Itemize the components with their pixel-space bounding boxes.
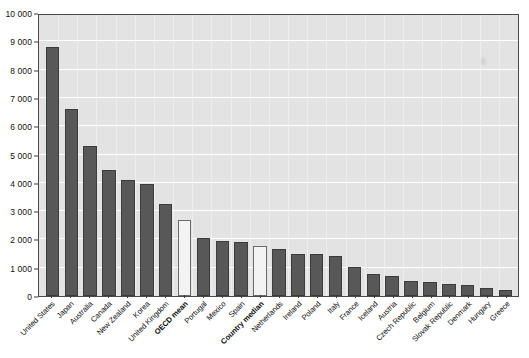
bar-austria[interactable] (385, 276, 399, 296)
bar-slot (251, 15, 270, 296)
bar-portugal[interactable] (197, 238, 211, 296)
x-axis-slot: Ireland (288, 298, 307, 358)
x-axis-tick-mark (89, 295, 90, 298)
y-axis-tick-label: 9 000 (10, 37, 32, 47)
x-axis-tick-mark (165, 295, 166, 298)
bar-slot (137, 15, 156, 296)
y-axis-tick-label: 7 000 (10, 94, 32, 104)
bar-italy[interactable] (329, 256, 343, 296)
x-axis-tick-mark (108, 295, 109, 298)
x-axis-slot: Portugal (194, 298, 213, 358)
bar-slot (43, 15, 62, 296)
bar-ireland[interactable] (291, 254, 305, 296)
bar-slot (477, 15, 496, 296)
bar-slot (439, 15, 458, 296)
x-axis-tick-mark (222, 295, 223, 298)
x-axis-tick-mark (506, 295, 507, 298)
bar-spain[interactable] (234, 242, 248, 296)
x-axis-slot: France (345, 298, 364, 358)
x-axis-labels: United StatesJapanAustraliaCanadaNew Zea… (38, 298, 519, 358)
y-axis-tick-label: 0 (27, 292, 32, 302)
y-axis-tick-label: 5 000 (10, 151, 32, 161)
bar-slot (213, 15, 232, 296)
bar-slot (81, 15, 100, 296)
x-axis-slot: Japan (61, 298, 80, 358)
x-axis-slot: Slovak Republic (440, 298, 459, 358)
x-axis-slot: Iceland (364, 298, 383, 358)
x-axis-tick-mark (412, 295, 413, 298)
bar-slot (307, 15, 326, 296)
x-axis-tick-mark (336, 295, 337, 298)
x-axis-slot: Denmark (459, 298, 478, 358)
x-axis-tick-mark (279, 295, 280, 298)
x-axis-tick-mark (374, 295, 375, 298)
bar-slot (62, 15, 81, 296)
bar-slot (345, 15, 364, 296)
x-axis-tick-mark (184, 295, 185, 298)
plot-area (38, 14, 519, 297)
x-axis-tick-mark (468, 295, 469, 298)
x-axis-tick-mark (203, 295, 204, 298)
bar-slot (326, 15, 345, 296)
y-axis-tick-label: 10 000 (5, 9, 32, 19)
x-axis-tick-mark (241, 295, 242, 298)
bar-slot (288, 15, 307, 296)
bar-united-kingdom[interactable] (159, 204, 173, 296)
bar-france[interactable] (348, 267, 362, 296)
bar-slot (402, 15, 421, 296)
bar-slot (458, 15, 477, 296)
bar-oecd-mean[interactable] (178, 220, 192, 296)
x-axis-tick-mark (127, 295, 128, 298)
x-axis-slot: Greece (497, 298, 516, 358)
x-axis-tick-mark (431, 295, 432, 298)
x-axis-slot: OECD mean (175, 298, 194, 358)
y-axis: 01 0002 0003 0004 0005 0006 0007 0008 00… (0, 14, 38, 297)
bar-slot (364, 15, 383, 296)
bar-slot (383, 15, 402, 296)
bar-series (39, 15, 518, 296)
bar-chart: 01 0002 0003 0004 0005 0006 0007 0008 00… (0, 0, 529, 358)
bar-iceland[interactable] (367, 274, 381, 296)
y-axis-tick-label: 3 000 (10, 207, 32, 217)
bar-slot (194, 15, 213, 296)
bar-czech-republic[interactable] (404, 281, 418, 296)
bar-slot (421, 15, 440, 296)
x-axis-tick-mark (317, 295, 318, 298)
x-axis-tick-mark (146, 295, 147, 298)
bar-slot (100, 15, 119, 296)
bar-slot (119, 15, 138, 296)
x-axis-tick-mark (260, 295, 261, 298)
x-axis-slot: Italy (326, 298, 345, 358)
bar-new-zealand[interactable] (121, 180, 135, 296)
x-axis-slot: Poland (307, 298, 326, 358)
bar-united-states[interactable] (46, 47, 60, 296)
x-axis-tick-mark (298, 295, 299, 298)
x-axis-tick-label: United States (20, 300, 57, 337)
x-axis-slot: United States (42, 298, 61, 358)
bar-poland[interactable] (310, 254, 324, 296)
bar-mexico[interactable] (216, 241, 230, 296)
y-axis-tick-label: 8 000 (10, 66, 32, 76)
y-axis-tick-label: 4 000 (10, 179, 32, 189)
bar-japan[interactable] (65, 109, 79, 296)
bar-slot (232, 15, 251, 296)
bar-slot (270, 15, 289, 296)
x-axis-tick-mark (449, 295, 450, 298)
y-axis-tick-label: 6 000 (10, 122, 32, 132)
bar-slot (496, 15, 515, 296)
x-axis-tick-mark (393, 295, 394, 298)
x-axis-slot: Netherlands (269, 298, 288, 358)
x-axis-tick-mark (487, 295, 488, 298)
bar-slot (156, 15, 175, 296)
bar-canada[interactable] (102, 170, 116, 296)
bar-country-median[interactable] (253, 246, 267, 296)
y-axis-tick-label: 2 000 (10, 235, 32, 245)
x-axis-tick-mark (51, 295, 52, 298)
bar-netherlands[interactable] (272, 249, 286, 296)
x-axis-slot: Hungary (478, 298, 497, 358)
bar-korea[interactable] (140, 184, 154, 296)
bar-belgium[interactable] (423, 282, 437, 296)
bar-australia[interactable] (83, 146, 97, 296)
x-axis-tick-mark (70, 295, 71, 298)
y-axis-tick-label: 1 000 (10, 264, 32, 274)
